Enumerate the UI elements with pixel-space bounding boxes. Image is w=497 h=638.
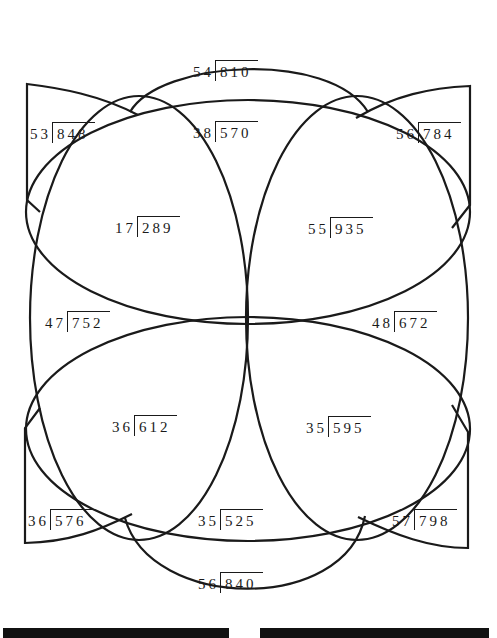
division-problem-top-left-wedge: 53848 [30, 124, 95, 143]
divisor: 53 [30, 125, 52, 143]
dividend: 672 [394, 311, 437, 332]
dividend: 798 [414, 509, 457, 530]
dividend: 525 [220, 509, 263, 530]
divisor: 57 [392, 512, 414, 530]
divisor: 35 [198, 512, 220, 530]
divisor: 35 [306, 419, 328, 437]
dividend: 784 [418, 122, 461, 143]
divisor: 36 [28, 512, 50, 530]
dividend: 570 [215, 121, 258, 142]
division-problem-bottom-left-wedge: 36576 [28, 511, 93, 530]
divisor: 47 [45, 314, 67, 332]
divisor: 55 [308, 220, 330, 238]
dividend: 612 [134, 415, 177, 436]
divisor: 17 [115, 219, 137, 237]
divisor: 38 [193, 124, 215, 142]
answer-line-left[interactable] [3, 628, 229, 638]
division-problem-bottom-right-wedge: 57798 [392, 511, 457, 530]
division-problem-lower-right: 35595 [306, 418, 371, 437]
divisor: 56 [198, 575, 220, 593]
division-problem-middle-left: 47752 [45, 313, 110, 332]
dividend: 810 [215, 60, 258, 81]
divisor: 56 [396, 125, 418, 143]
divisor: 36 [112, 418, 134, 436]
answer-line-right[interactable] [260, 628, 489, 638]
divisor: 54 [193, 63, 215, 81]
division-problem-top-cap: 54810 [193, 62, 258, 81]
dividend: 595 [328, 416, 371, 437]
division-problem-upper-left: 17289 [115, 218, 180, 237]
division-problem-top-center: 38570 [193, 123, 258, 142]
dividend: 935 [330, 217, 373, 238]
division-problem-upper-right: 55935 [308, 219, 373, 238]
division-problem-lower-left: 36612 [112, 417, 177, 436]
dividend: 848 [52, 122, 95, 143]
division-problem-bottom-cap: 56840 [198, 574, 263, 593]
dividend: 840 [220, 572, 263, 593]
division-problem-top-right-wedge: 56784 [396, 124, 461, 143]
dividend: 752 [67, 311, 110, 332]
divisor: 48 [372, 314, 394, 332]
top-left-wedge [27, 84, 138, 212]
division-problem-bottom-center: 35525 [198, 511, 263, 530]
dividend: 576 [50, 509, 93, 530]
dividend: 289 [137, 216, 180, 237]
division-problem-middle-right: 48672 [372, 313, 437, 332]
